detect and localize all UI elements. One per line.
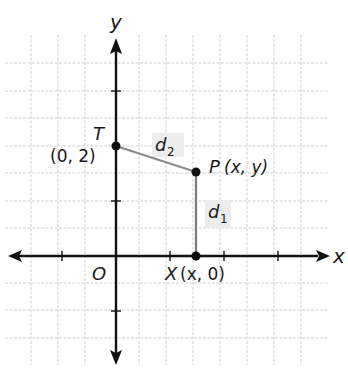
point-T xyxy=(112,142,121,151)
x-axis-arrow-right-icon xyxy=(316,250,330,262)
d1-label: d xyxy=(208,201,220,222)
point-P-coords: (x, y) xyxy=(224,157,268,177)
d2-label: d xyxy=(155,134,167,155)
point-X-label: X xyxy=(164,263,178,284)
coordinate-plane: y x O T (0, 2) P (x, y) X (x, 0) d 2 d 1 xyxy=(0,0,348,382)
d2-label-subscript: 2 xyxy=(167,145,175,159)
point-P-label: P xyxy=(209,156,220,177)
point-T-label: T xyxy=(93,123,106,144)
d1-label-subscript: 1 xyxy=(220,212,228,226)
x-axis-label: x xyxy=(332,244,345,268)
point-T-coords: (0, 2) xyxy=(50,146,96,166)
point-P xyxy=(192,168,201,177)
grid xyxy=(5,35,328,365)
origin-label: O xyxy=(92,263,106,284)
y-axis-label: y xyxy=(109,10,123,34)
point-X-coords: (x, 0) xyxy=(180,264,225,284)
point-X xyxy=(192,252,201,261)
